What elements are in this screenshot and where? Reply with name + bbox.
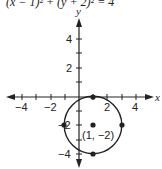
x-tick-label: −2 bbox=[44, 101, 57, 113]
x-axis-right-arrow-icon bbox=[145, 94, 154, 100]
y-tick-label: −4 bbox=[58, 148, 71, 160]
x-axis-left-arrow-icon bbox=[6, 94, 15, 100]
circle-graph: (x − 1)² + (y + 2)² = 4 −4 −2 2 4 x 4 2 bbox=[0, 0, 162, 169]
x-tick-label: 2 bbox=[104, 101, 110, 113]
x-tick-label: 4 bbox=[132, 101, 138, 113]
top-point bbox=[90, 94, 95, 99]
x-tick-label: −4 bbox=[15, 101, 28, 113]
bottom-point bbox=[90, 151, 95, 156]
points bbox=[61, 94, 124, 156]
y-axis-down-arrow-icon bbox=[76, 159, 82, 168]
y-axis-label: y bbox=[75, 5, 81, 17]
center-point bbox=[90, 122, 95, 127]
center-label: (1, −2) bbox=[82, 129, 114, 141]
equation-label: (x − 1)² + (y + 2)² = 4 bbox=[6, 0, 114, 9]
y-tick-label: 4 bbox=[66, 33, 72, 45]
y-axis: 4 2 −2 −4 y bbox=[58, 5, 82, 168]
left-point bbox=[61, 122, 66, 127]
y-axis-up-arrow-icon bbox=[76, 18, 82, 27]
x-axis: −4 −2 2 4 x bbox=[6, 91, 160, 113]
y-tick-label: 2 bbox=[66, 62, 72, 74]
right-point bbox=[119, 122, 124, 127]
x-axis-label: x bbox=[154, 91, 160, 103]
